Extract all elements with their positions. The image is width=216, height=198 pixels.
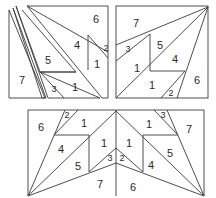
- piece-label: 1: [149, 79, 155, 91]
- piece-label: 1: [101, 137, 107, 149]
- piece-label: 6: [93, 13, 99, 25]
- piece-label: 7: [133, 17, 139, 29]
- piece-label: 3: [125, 44, 130, 54]
- piece-label: 2: [64, 110, 69, 120]
- piece-label: 3: [107, 153, 112, 163]
- piece-label: 2: [168, 88, 173, 98]
- piece-label: 1: [72, 81, 78, 93]
- piece-label: 6: [194, 74, 200, 86]
- piece-label: 4: [58, 143, 64, 155]
- piece-label: 3: [160, 110, 165, 120]
- piece-label: 1: [81, 117, 87, 129]
- piece-label: 5: [157, 39, 163, 51]
- piece-label: 2: [119, 153, 124, 163]
- piece-label: 4: [74, 39, 80, 51]
- piece-label: 3: [51, 84, 56, 94]
- piece-label: 4: [172, 53, 178, 65]
- piece-label: 2: [103, 43, 108, 53]
- piece-label: 1: [134, 62, 140, 74]
- piece-label: 7: [97, 178, 103, 190]
- piece-7: [9, 10, 45, 98]
- piece-label: 5: [167, 147, 173, 159]
- dissection-diagram: 64215713735416126214513712613754: [0, 0, 216, 198]
- piece-label: 5: [45, 54, 51, 66]
- piece-label: 7: [19, 74, 25, 86]
- edge: [154, 110, 178, 135]
- piece-label: 1: [146, 118, 152, 130]
- piece-label: 5: [75, 160, 81, 172]
- piece-label: 4: [148, 159, 154, 171]
- piece-label: 6: [130, 181, 136, 193]
- piece-label: 1: [94, 58, 100, 70]
- piece-label: 7: [186, 123, 192, 135]
- piece-label: 1: [126, 137, 132, 149]
- edge: [177, 7, 208, 98]
- piece-label: 6: [38, 121, 44, 133]
- sliver-a: [13, 8, 46, 98]
- panel-bottom: [28, 110, 204, 196]
